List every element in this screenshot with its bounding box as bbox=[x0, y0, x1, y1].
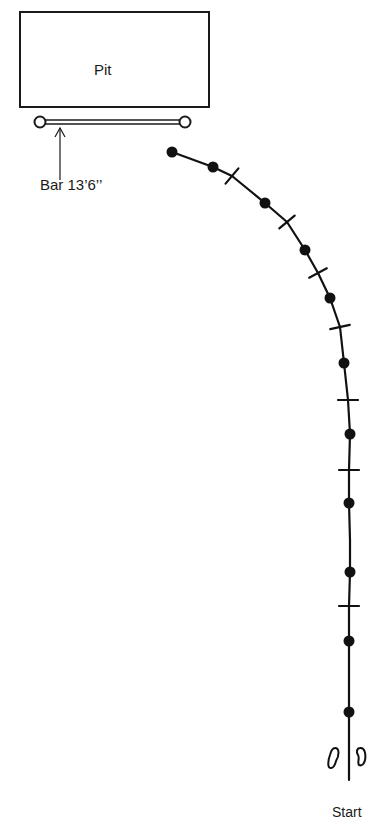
stride-dot bbox=[344, 707, 355, 718]
stride-dot bbox=[339, 358, 350, 369]
stride-dot bbox=[345, 429, 356, 440]
bar-height-label: Bar 13’6’’ bbox=[40, 176, 102, 193]
footprint-left-icon bbox=[328, 748, 338, 768]
pit-label: Pit bbox=[94, 61, 112, 78]
bar-standard-left bbox=[35, 117, 46, 128]
bar-standard-right bbox=[180, 117, 191, 128]
check-mark bbox=[226, 168, 239, 183]
start-footprints bbox=[328, 748, 365, 768]
start-label: Start bbox=[332, 804, 362, 820]
footprint-right-icon bbox=[357, 748, 365, 765]
stride-dots bbox=[167, 147, 356, 718]
stride-dot bbox=[345, 567, 356, 578]
high-jump-approach-diagram bbox=[0, 0, 388, 840]
stride-dot bbox=[325, 293, 336, 304]
bar-pointer-arrow-icon bbox=[55, 128, 65, 180]
stride-dot bbox=[344, 636, 355, 647]
stride-dot bbox=[300, 245, 311, 256]
stride-dot bbox=[208, 162, 219, 173]
stride-dot bbox=[167, 147, 178, 158]
check-marks bbox=[226, 168, 359, 606]
pit-box bbox=[20, 12, 209, 107]
stride-dot bbox=[260, 198, 271, 209]
approach-run-path bbox=[172, 152, 350, 780]
check-mark bbox=[309, 268, 327, 277]
crossbar bbox=[35, 117, 191, 128]
stride-dot bbox=[344, 498, 355, 509]
